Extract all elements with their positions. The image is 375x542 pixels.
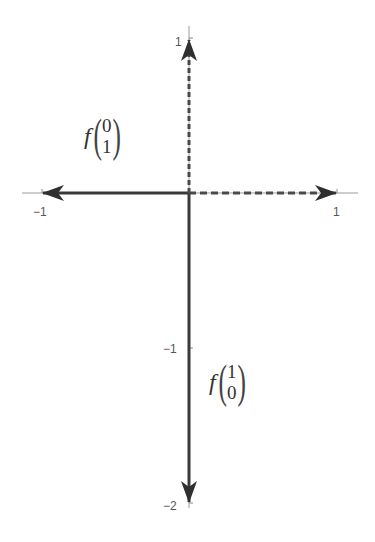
label-f-0-1-close-paren: ) xyxy=(112,113,120,159)
y-tick-label-neg1: −1 xyxy=(163,342,177,356)
label-f-0-1-func: f xyxy=(84,123,91,150)
label-f-0-1-bottom: 1 xyxy=(102,136,112,157)
vector-plot: −1 1 1 −1 −2 xyxy=(0,0,375,542)
x-tick-label-neg1: −1 xyxy=(33,205,47,219)
label-f-1-0: f ( 1 0 ) xyxy=(209,359,249,405)
y-tick-label-pos1: 1 xyxy=(175,35,182,49)
label-f-1-0-close-paren: ) xyxy=(237,359,245,405)
label-f-0-1-open-paren: ( xyxy=(93,113,101,159)
label-f-1-0-vector: 1 0 xyxy=(227,361,237,403)
x-tick-label-pos1: 1 xyxy=(333,205,340,219)
label-f-0-1-vector: 0 1 xyxy=(102,115,112,157)
label-f-1-0-top: 1 xyxy=(227,361,237,382)
y-tick-label-neg2: −2 xyxy=(163,499,177,513)
label-f-1-0-func: f xyxy=(209,369,216,396)
label-f-0-1: f ( 0 1 ) xyxy=(84,113,124,159)
label-f-1-0-open-paren: ( xyxy=(218,359,226,405)
label-f-1-0-bottom: 0 xyxy=(227,382,237,403)
label-f-0-1-top: 0 xyxy=(102,115,112,136)
